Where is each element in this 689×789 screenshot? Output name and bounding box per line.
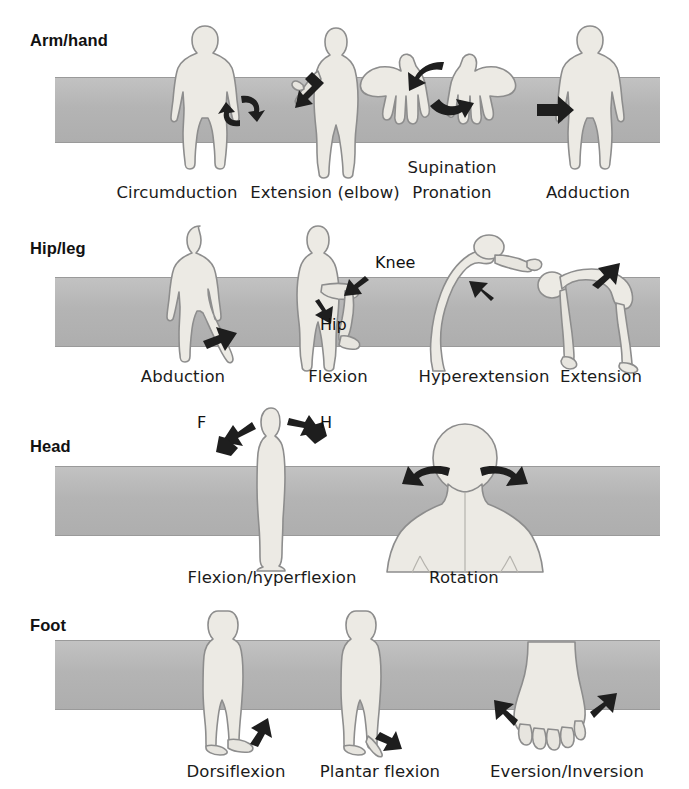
caption-pronation: Pronation <box>412 183 491 202</box>
annotation-hip: Hip <box>320 315 347 334</box>
caption-flexion-hip-leg: Flexion <box>308 367 368 386</box>
caption-adduction: Adduction <box>546 183 630 202</box>
caption-abduction: Abduction <box>141 367 225 386</box>
caption-dorsiflexion: Dorsiflexion <box>186 762 285 781</box>
figure-extension-hip <box>530 245 670 373</box>
section-heading-hip-leg: Hip/leg <box>30 239 86 258</box>
section-heading-head: Head <box>30 437 71 456</box>
caption-extension-elbow: Extension (elbow) <box>250 183 400 202</box>
range-of-motion-diagram: Arm/hand Circumduction Extension (elbow) <box>0 0 689 789</box>
section-heading-arm-hand: Arm/hand <box>30 31 108 50</box>
figure-circumduction <box>145 22 265 174</box>
caption-flexion-hyperflexion: Flexion/hyperflexion <box>187 568 356 587</box>
caption-circumduction: Circumduction <box>116 183 237 202</box>
figure-flexion-hip-leg <box>288 223 418 373</box>
section-foot: Foot Dorsiflexion Plan <box>0 600 689 789</box>
caption-plantar-flexion: Plantar flexion <box>320 762 440 781</box>
figure-dorsiflexion <box>192 608 292 756</box>
section-arm-hand: Arm/hand Circumduction Extension (elbow) <box>0 0 689 215</box>
annotation-h: H <box>320 413 332 432</box>
section-hip-leg: Hip/leg Abduction Knee <box>0 215 689 400</box>
annotation-f: F <box>197 413 206 432</box>
caption-extension-hip: Extension <box>560 367 642 386</box>
figure-rotation <box>380 422 550 574</box>
caption-eversion-inversion: Eversion/Inversion <box>490 762 644 781</box>
band-gradient <box>55 467 660 535</box>
figure-adduction <box>530 22 650 174</box>
section-head: Head F H Flexion/hyperflexion <box>0 400 689 600</box>
caption-supination: Supination <box>407 158 496 177</box>
figure-supination-pronation <box>358 48 518 158</box>
arrow-flexion-f <box>212 418 258 460</box>
figure-abduction <box>145 223 275 373</box>
section-heading-foot: Foot <box>30 616 66 635</box>
reference-band-head <box>55 466 660 536</box>
figure-eversion-inversion <box>490 640 610 755</box>
caption-rotation: Rotation <box>429 568 499 587</box>
annotation-knee: Knee <box>375 253 415 272</box>
figure-plantar-flexion <box>330 608 430 756</box>
